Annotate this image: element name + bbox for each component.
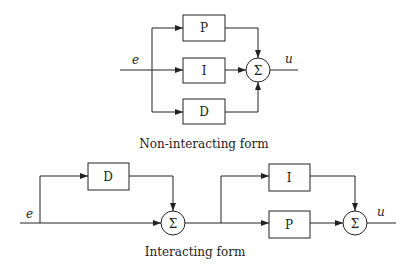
non-interacting-diagram: P I D Σ e u Non-interacting form (120, 15, 298, 151)
output-u-label: u (285, 52, 293, 66)
caption-interacting: Interacting form (145, 245, 246, 259)
i-block-label: I (287, 171, 292, 185)
d-block-label: D (103, 170, 113, 184)
p-to-sum (225, 28, 258, 58)
i-block-label: I (202, 64, 207, 78)
d-to-sum1 (129, 176, 173, 211)
d-to-sum (225, 82, 258, 112)
arrow-to-i (221, 176, 269, 223)
p-block-label: P (285, 218, 293, 232)
i-to-sum2 (310, 176, 355, 211)
input-e-label: e (132, 53, 139, 67)
sum-symbol: Σ (254, 64, 262, 78)
pid-diagram: P I D Σ e u Non-interacting form D Σ I P (0, 0, 412, 271)
p-block-label: P (200, 21, 208, 35)
output-u-label: u (377, 205, 385, 219)
d-block-label: D (199, 105, 209, 119)
input-e-label: e (26, 207, 33, 221)
caption-non-interacting: Non-interacting form (139, 137, 269, 151)
interacting-diagram: D Σ I P Σ e u Interacting form (20, 163, 396, 259)
sum2-symbol: Σ (351, 217, 359, 231)
sum1-symbol: Σ (169, 217, 177, 231)
arrow-to-d (40, 176, 88, 223)
